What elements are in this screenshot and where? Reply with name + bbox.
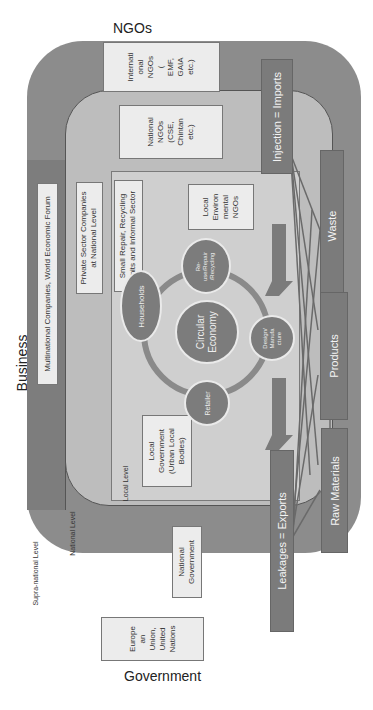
design-manufacture-node: Design/ Manufa cture xyxy=(249,315,295,361)
arrow-down-icon xyxy=(265,224,293,296)
text-line: /Recycling xyxy=(209,251,216,280)
reuse-repair-recycling-node: Re- use/Repair /Recycling xyxy=(181,238,231,294)
circular-economy-center: Circular Economy xyxy=(175,300,239,364)
retailer-node: Retailer xyxy=(184,380,230,426)
text-line: cture xyxy=(276,328,283,348)
arrow-down-icon xyxy=(265,378,293,450)
text-line: Manufa xyxy=(269,328,276,348)
injection-imports-bar: Injection = Imports xyxy=(261,59,293,174)
products-bar: Products xyxy=(320,292,348,420)
raw-materials-bar: Raw Materials xyxy=(321,428,348,553)
waste-bar: Waste xyxy=(320,150,344,302)
text-line: Economy xyxy=(207,311,219,353)
text-line: Design/ xyxy=(262,328,269,348)
households-node: Households xyxy=(120,270,162,342)
text-line: Circular xyxy=(195,311,207,353)
leakages-exports-bar: Leakages = Exports xyxy=(270,450,294,632)
